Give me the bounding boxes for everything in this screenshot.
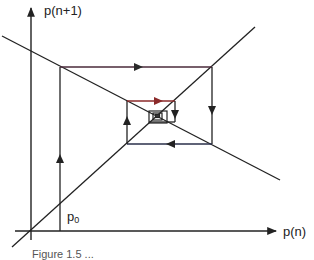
direction-arrows [56,63,216,163]
arrow-up-icon [123,116,131,125]
arrow-left-icon [166,140,175,148]
arrow-right-icon [134,63,143,71]
initial-point-label: p0 [67,210,79,225]
initial-point-subscript: 0 [74,215,79,225]
y-axis-label: p(n+1) [44,4,82,17]
cobweb-path [60,67,212,231]
arrow-up-icon [56,154,64,163]
arrow-down-icon [208,106,216,115]
arrow-down-icon [171,110,179,119]
decreasing-map-line [2,36,280,180]
figure-caption: Figure 1.5 ... [32,248,94,260]
x-axis-label: p(n) [283,225,306,238]
arrow-right-icon [154,97,163,105]
